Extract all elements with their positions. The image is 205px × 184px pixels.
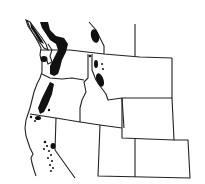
range-dot xyxy=(49,164,51,166)
range-olympics xyxy=(41,56,48,62)
range-dot xyxy=(47,157,49,159)
range-north-idaho xyxy=(94,60,98,68)
wa-or-border xyxy=(42,74,84,80)
wy-border xyxy=(122,98,174,140)
range-sierra-main xyxy=(51,143,56,149)
nv-ut-border xyxy=(98,125,190,178)
range-dot xyxy=(89,55,92,58)
range-dot xyxy=(51,160,53,162)
range-dot xyxy=(48,150,50,152)
ca-nv-border xyxy=(55,118,75,178)
range-bc-cascades xyxy=(40,22,68,76)
range-dot xyxy=(101,63,103,65)
range-dot xyxy=(43,148,45,150)
range-dot xyxy=(34,120,36,122)
range-dot xyxy=(102,68,104,70)
range-selkirks xyxy=(89,28,100,44)
range-dot xyxy=(48,109,50,111)
range-dot xyxy=(44,141,47,144)
pacific-coastline xyxy=(25,20,42,176)
mt-south-border xyxy=(122,58,172,98)
range-siskiyou xyxy=(35,116,41,120)
range-dot xyxy=(46,145,48,147)
range-dot xyxy=(30,116,32,118)
id-west-border xyxy=(80,54,88,122)
range-oregon-cascades xyxy=(38,82,54,114)
range-map xyxy=(0,0,205,184)
range-dot xyxy=(52,167,54,169)
range-dot xyxy=(50,154,52,156)
or-south-border xyxy=(30,114,122,128)
range-dot xyxy=(50,170,52,172)
